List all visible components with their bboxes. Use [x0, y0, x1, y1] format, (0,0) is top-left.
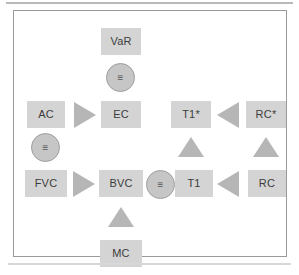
node-label: RC*	[256, 109, 277, 120]
node-bvc: BVC	[99, 170, 143, 197]
page-bottom-rule	[8, 263, 291, 265]
equivalence-icon-eq-bvc-t1: ≡	[146, 170, 175, 199]
node-label: FVC	[35, 178, 58, 189]
node-var: VaR	[101, 28, 141, 55]
node-label: MC	[112, 248, 130, 259]
equivalence-glyph: ≡	[158, 179, 164, 189]
node-fvc: FVC	[25, 170, 67, 197]
equivalence-icon-eq-var-ec: ≡	[106, 63, 135, 92]
arrow-left-icon-rcs-to-t1s	[217, 102, 239, 128]
page-top-rule	[6, 2, 293, 4]
node-t1: T1	[175, 170, 213, 197]
node-rc: RC	[248, 170, 286, 197]
equivalence-glyph: ≡	[118, 72, 124, 82]
diagram-canvas: VaRACECT1*RC*FVCBVCT1RCMC≡≡≡	[14, 11, 286, 256]
node-label: T1*	[182, 109, 200, 120]
node-t1s: T1*	[171, 101, 211, 128]
equivalence-icon-eq-ac-fvc: ≡	[31, 133, 60, 162]
arrow-left-icon-rc-to-t1	[217, 171, 239, 197]
arrow-right-icon-fvc-to-bvc	[73, 171, 95, 197]
arrow-up-icon-t1-to-t1s	[178, 137, 204, 157]
node-ac: AC	[27, 101, 65, 128]
arrow-up-icon-rc-to-rcs	[253, 137, 279, 157]
node-label: RC	[259, 178, 275, 189]
node-label: T1	[187, 178, 200, 189]
arrow-up-icon-mc-to-bvc	[108, 207, 134, 227]
node-ec: EC	[101, 101, 141, 128]
node-rcs: RC*	[246, 101, 286, 128]
figure-frame: VaRACECT1*RC*FVCBVCT1RCMC≡≡≡	[13, 10, 287, 257]
node-label: VaR	[110, 36, 131, 47]
arrow-right-icon-ac-to-ec	[74, 102, 96, 128]
node-label: EC	[113, 109, 129, 120]
node-label: AC	[38, 109, 54, 120]
equivalence-glyph: ≡	[43, 142, 49, 152]
node-label: BVC	[109, 178, 132, 189]
